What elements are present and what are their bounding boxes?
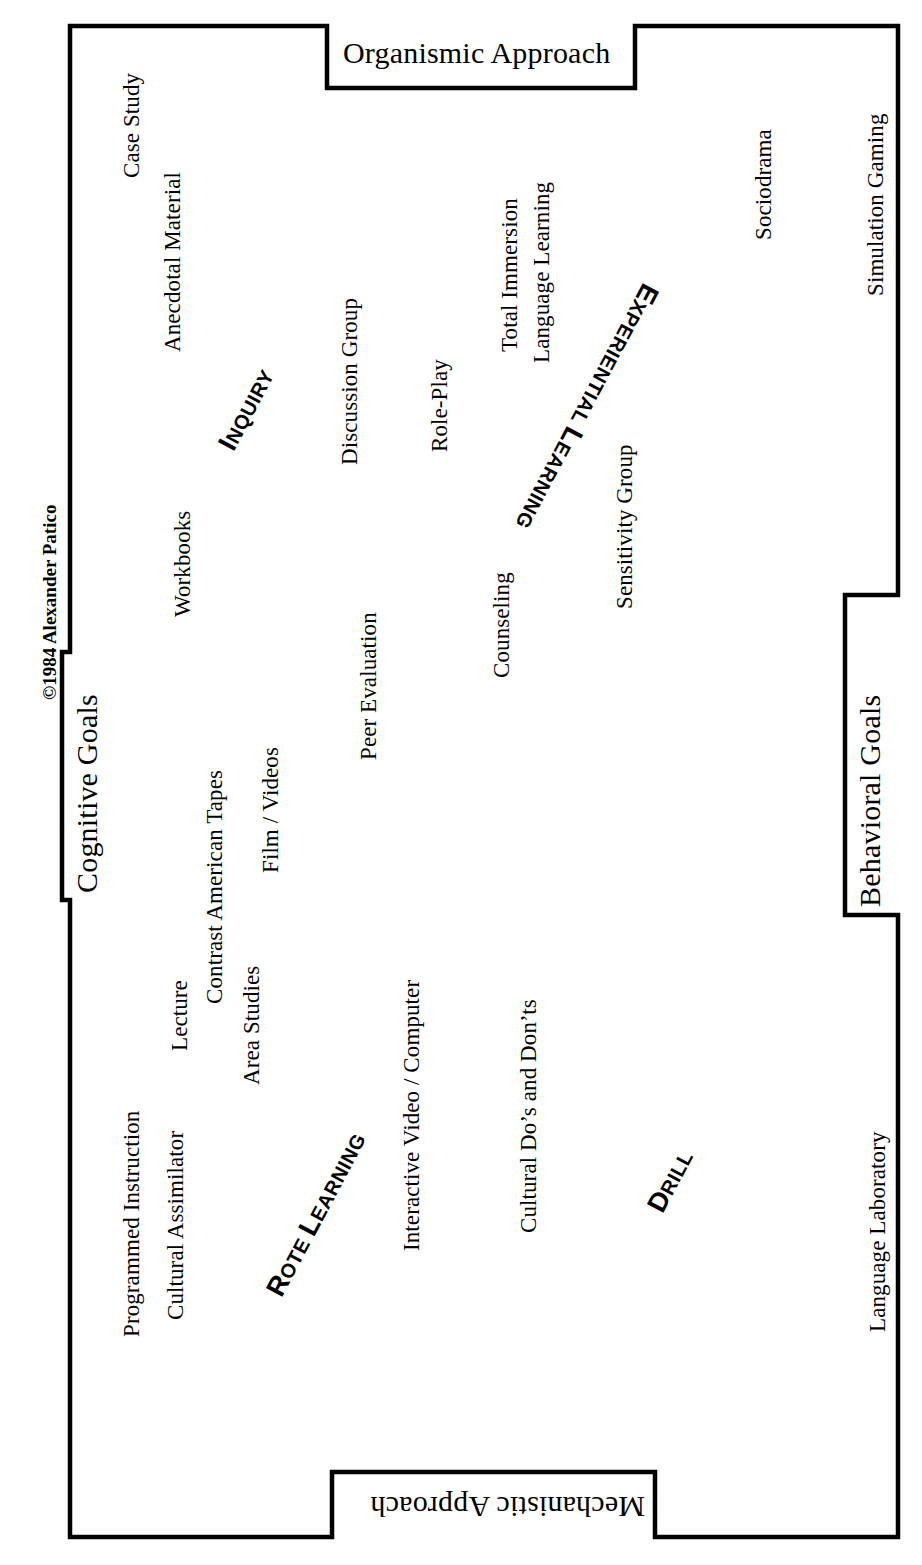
axis-label-cognitive: Cognitive Goals	[72, 694, 102, 893]
item-interactive-video: Interactive Video / Computer	[400, 980, 423, 1251]
item-language-laboratory: Language Laboratory	[866, 1132, 889, 1333]
item-case-study: Case Study	[120, 73, 143, 178]
axis-label-organismic: Organismic Approach	[343, 38, 610, 68]
item-lecture: Lecture	[168, 980, 191, 1051]
copyright-notice: ©1984 Alexander Patico	[40, 505, 59, 700]
item-discussion-group: Discussion Group	[338, 298, 361, 465]
item-cultural-dos-donts: Cultural Do’s and Don’ts	[517, 999, 540, 1233]
item-workbooks: Workbooks	[171, 511, 194, 617]
item-programmed-instruction: Programmed Instruction	[120, 1111, 143, 1337]
item-language-learning: Language Learning	[530, 182, 553, 363]
item-simulation-gaming: Simulation Gaming	[864, 114, 887, 297]
axis-label-mechanistic: Mechanistic Approach	[370, 1492, 645, 1522]
item-role-play: Role-Play	[428, 359, 451, 452]
item-cultural-assimilator: Cultural Assimilator	[164, 1131, 187, 1320]
diagram-canvas: ©1984 Alexander Patico Organismic Approa…	[0, 0, 922, 1565]
item-film-videos: Film / Videos	[259, 747, 282, 873]
item-sociodrama: Sociodrama	[752, 129, 775, 240]
item-area-studies: Area Studies	[240, 966, 263, 1085]
item-sensitivity-group: Sensitivity Group	[613, 444, 636, 609]
item-peer-evaluation: Peer Evaluation	[357, 612, 380, 760]
axis-label-behavioral: Behavioral Goals	[855, 695, 885, 907]
item-total-immersion: Total Immersion	[498, 198, 521, 352]
item-anecdotal-material: Anecdotal Material	[161, 172, 184, 352]
item-contrast-american-tapes: Contrast American Tapes	[203, 770, 226, 1004]
item-counseling: Counseling	[490, 572, 513, 678]
